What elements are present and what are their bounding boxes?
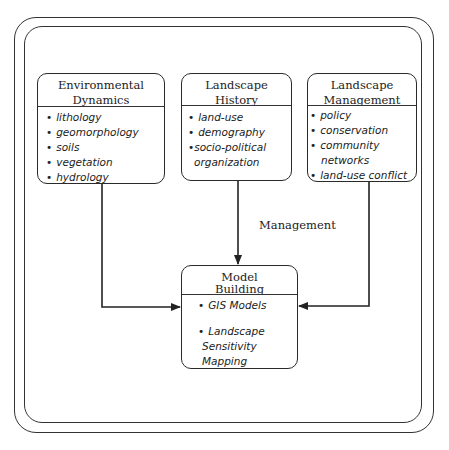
- connector-arrows: [0, 0, 449, 450]
- list-item: •policy: [310, 108, 414, 123]
- list-item: •GIS Models: [198, 298, 295, 313]
- bullet-icon: •: [310, 169, 316, 181]
- list-item-continuation: organization: [188, 155, 289, 170]
- divider: [182, 294, 297, 295]
- item-text: Landscape: [208, 325, 264, 337]
- arrow-environmental-to-model: [102, 184, 180, 307]
- divider: [38, 106, 164, 107]
- item-text: land-use: [198, 111, 243, 123]
- item-text: land-use conflict: [320, 169, 407, 181]
- arrow-management-to-model: [299, 182, 369, 306]
- box-landscape-management: Landscape Management •policy •conservati…: [307, 73, 417, 182]
- bullet-icon: •: [310, 139, 316, 151]
- list-item-continuation: Sensitivity: [198, 339, 295, 354]
- title-line: Landscape: [182, 78, 291, 93]
- item-list: •lithology •geomorphology •soils •vegeta…: [46, 110, 162, 185]
- list-item: •community: [310, 138, 414, 153]
- list-item: •demography: [188, 125, 289, 140]
- box-title: Landscape History: [182, 74, 291, 108]
- edge-label-management: Management: [259, 218, 336, 232]
- list-item: •vegetation: [46, 155, 162, 170]
- box-environmental-dynamics: Environmental Dynamics •lithology •geomo…: [37, 73, 165, 184]
- bullet-icon: •: [310, 109, 316, 121]
- divider: [308, 105, 416, 106]
- box-landscape-history: Landscape History •land-use •demography …: [181, 73, 292, 181]
- list-item: •hydrology: [46, 170, 162, 185]
- bullet-icon: •: [198, 299, 204, 311]
- bullet-icon: •: [198, 325, 204, 337]
- bullet-icon: •: [188, 126, 194, 138]
- list-item: •land-use: [188, 110, 289, 125]
- title-line: Landscape: [308, 78, 416, 93]
- list-item-continuation: networks: [310, 153, 414, 168]
- divider: [182, 105, 291, 106]
- item-text: demography: [198, 126, 265, 138]
- bullet-icon: •: [46, 156, 52, 168]
- item-text: vegetation: [56, 156, 112, 168]
- list-item: •socio-political: [188, 140, 289, 155]
- item-text: Sensitivity: [202, 340, 257, 352]
- list-item: •conservation: [310, 123, 414, 138]
- box-model-building: Model Building •GIS Models •Landscape Se…: [181, 265, 298, 369]
- bullet-icon: •: [46, 171, 52, 183]
- list-item: •land-use conflict: [310, 168, 414, 183]
- list-item: •Landscape: [198, 324, 295, 339]
- item-text: conservation: [320, 124, 388, 136]
- item-text: community: [320, 139, 379, 151]
- item-text: lithology: [56, 111, 101, 123]
- list-item: •lithology: [46, 110, 162, 125]
- list-item-continuation: Mapping: [198, 354, 295, 369]
- bullet-icon: •: [188, 111, 194, 123]
- item-text: networks: [321, 154, 369, 166]
- box-title: Model Building: [182, 266, 297, 297]
- list-item: •geomorphology: [46, 125, 162, 140]
- spacer: [198, 313, 295, 324]
- list-item: •soils: [46, 140, 162, 155]
- box-title: Environmental Dynamics: [38, 74, 164, 108]
- item-list: •GIS Models •Landscape Sensitivity Mappi…: [198, 298, 295, 369]
- item-text: GIS Models: [208, 299, 266, 311]
- bullet-icon: •: [46, 141, 52, 153]
- item-text: Mapping: [202, 355, 247, 367]
- item-list: •land-use •demography •socio-political o…: [188, 110, 289, 170]
- item-text: hydrology: [56, 171, 109, 183]
- box-title: Landscape Management: [308, 74, 416, 108]
- item-text: soils: [56, 141, 79, 153]
- item-text: socio-political: [194, 141, 266, 153]
- bullet-icon: •: [46, 126, 52, 138]
- bullet-icon: •: [46, 111, 52, 123]
- item-list: •policy •conservation •community network…: [310, 108, 414, 183]
- bullet-icon: •: [310, 124, 316, 136]
- item-text: geomorphology: [56, 126, 138, 138]
- item-text: policy: [320, 109, 351, 121]
- title-line: Environmental: [38, 78, 164, 93]
- item-text: organization: [194, 156, 259, 168]
